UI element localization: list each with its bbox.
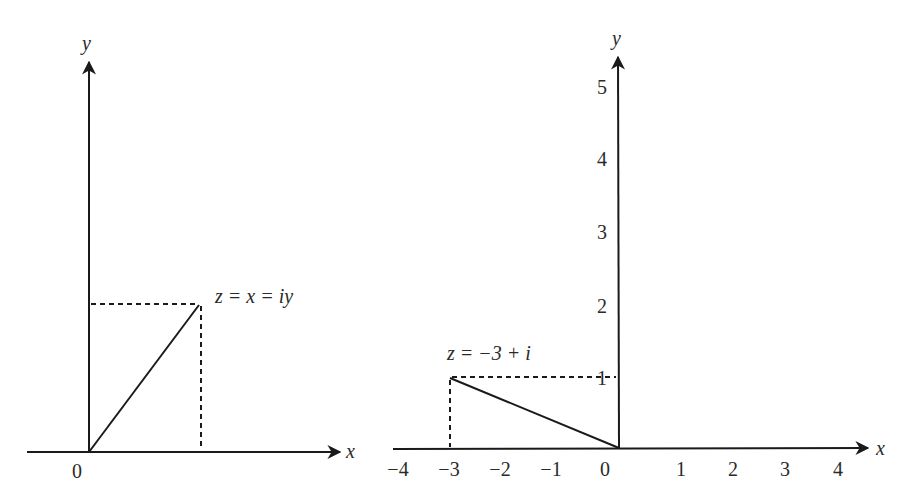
x-tick-label: 2	[728, 458, 738, 480]
right-y-axis-label: y	[610, 27, 621, 50]
left-x-axis-label: x	[345, 440, 355, 462]
y-tick-label: 5	[597, 76, 607, 98]
x-tick-label: 1	[676, 458, 686, 480]
left-origin-label: 0	[72, 460, 82, 482]
right-x-axis-label: x	[875, 437, 885, 459]
x-tick-label: −3	[438, 458, 459, 480]
y-tick-label: 2	[597, 295, 607, 317]
right-x-axis	[393, 448, 868, 449]
x-tick-label: 3	[780, 458, 790, 480]
y-tick-label: 4	[597, 148, 607, 170]
left-plot: y x 0 z = x = iy	[27, 32, 355, 482]
right-y-axis	[618, 57, 619, 449]
y-tick-label: 1	[597, 367, 607, 389]
complex-plane-figure: y x 0 z = x = iy y x z = −3 + i −4 −3 −2…	[0, 0, 910, 501]
right-plot: y x z = −3 + i −4 −3 −2 −1 0 1 2 3 4 1 2…	[387, 27, 885, 480]
x-tick-label: −4	[387, 458, 408, 480]
left-vector-line	[89, 305, 199, 452]
x-tick-label: 4	[833, 458, 843, 480]
left-point-label: z = x = iy	[214, 285, 293, 308]
right-x-tick-labels: −4 −3 −2 −1 0 1 2 3 4	[387, 458, 843, 480]
y-tick-label: 3	[597, 221, 607, 243]
right-y-tick-labels: 1 2 3 4 5	[597, 76, 607, 389]
x-tick-label: 0	[600, 458, 610, 480]
x-tick-label: −1	[540, 458, 561, 480]
left-y-axis-label: y	[80, 32, 91, 55]
right-point-label: z = −3 + i	[446, 342, 531, 364]
x-tick-label: −2	[489, 458, 510, 480]
right-vector-line	[450, 378, 619, 448]
